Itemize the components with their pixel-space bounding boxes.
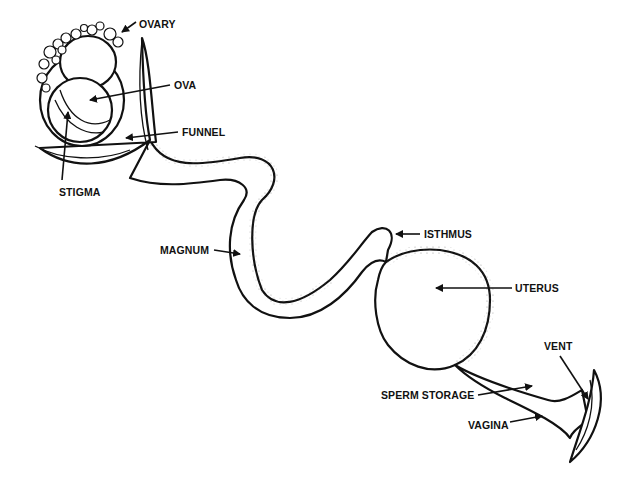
ovary — [37, 22, 124, 146]
svg-text:ISTHMUS: ISTHMUS — [424, 228, 472, 240]
svg-text:UTERUS: UTERUS — [515, 282, 559, 294]
svg-text:FUNNEL: FUNNEL — [182, 126, 226, 138]
svg-text:VAGINA: VAGINA — [468, 419, 509, 431]
svg-text:OVA: OVA — [174, 79, 197, 91]
label-ovary: OVARY — [122, 18, 176, 32]
svg-text:STIGMA: STIGMA — [59, 186, 101, 198]
oviduct-tube — [130, 140, 392, 318]
svg-text:VENT: VENT — [544, 340, 573, 352]
label-isthmus: ISTHMUS — [396, 228, 472, 240]
svg-text:SPERM STORAGE: SPERM STORAGE — [381, 389, 474, 401]
label-magnum: MAGNUM — [160, 244, 240, 256]
uterus — [375, 250, 490, 370]
svg-text:MAGNUM: MAGNUM — [160, 244, 209, 256]
label-funnel: FUNNEL — [126, 126, 226, 138]
label-vagina: VAGINA — [468, 416, 542, 431]
svg-text:OVARY: OVARY — [139, 18, 176, 30]
label-vent: VENT — [544, 340, 588, 399]
reproductive-tract-diagram: OVARY OVA FUNNEL STIGMA MAGNUM ISTHMUS U… — [0, 0, 639, 488]
